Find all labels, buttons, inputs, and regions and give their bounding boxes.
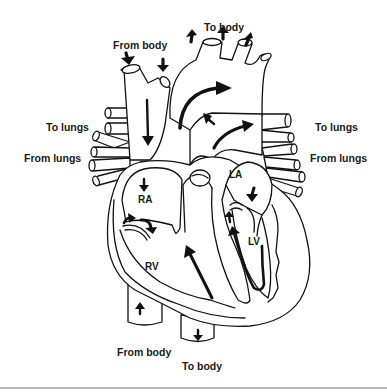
label-from-body-top: From body	[113, 40, 167, 51]
bottom-divider	[0, 387, 387, 389]
label-to-body-top: To body	[204, 22, 244, 33]
artery-opening-1	[203, 39, 221, 46]
label-to-body-bottom: To body	[182, 361, 222, 372]
label-from-lungs-left: From lungs	[24, 153, 81, 164]
label-left-ventricle: LV	[248, 237, 260, 247]
label-from-lungs-right: From lungs	[310, 153, 367, 164]
label-left-atrium: LA	[229, 170, 242, 180]
heart-drawing	[0, 0, 387, 392]
label-to-lungs-right: To lungs	[315, 122, 358, 133]
label-right-ventricle: RV	[145, 262, 159, 272]
label-right-atrium: RA	[138, 195, 152, 205]
pulmonary-trunk	[190, 113, 262, 165]
label-to-lungs-left: To lungs	[46, 122, 89, 133]
artery-opening-3	[260, 52, 273, 62]
label-from-body-bottom: From body	[117, 347, 171, 358]
heart-diagram: From body To body To lungs From lungs To…	[0, 0, 387, 392]
